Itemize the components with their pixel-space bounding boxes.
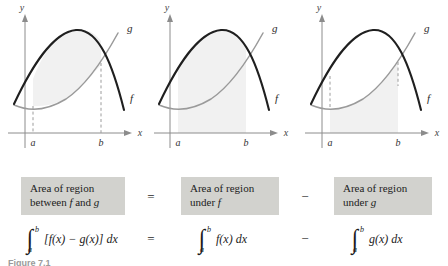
lower-bound-label-a: a <box>31 137 36 148</box>
upper-bound-label-b: b <box>99 137 104 148</box>
caption-area-between-f-and-g: Area of region between f and g <box>21 177 125 215</box>
curve-f-label: f <box>275 92 280 104</box>
curve-g-label: g <box>127 22 133 34</box>
x-axis-label: x <box>137 127 143 138</box>
y-axis-label: y <box>316 2 322 13</box>
integrand: g(x) <box>369 232 388 247</box>
integral-upper-limit: b <box>207 225 211 234</box>
panel-3-plot: y x a b g f <box>299 0 448 172</box>
caption-text-and: and <box>72 196 93 208</box>
differential: dx <box>106 232 117 247</box>
curve-f-label: f <box>427 92 432 104</box>
caption-line-2: under f <box>190 196 270 210</box>
integral-sign-group: ∫ b a <box>196 224 215 254</box>
caption-symbol-g: g <box>371 196 377 208</box>
x-axis-arrow <box>270 130 278 136</box>
integral-sign-group: ∫ b a <box>349 224 368 254</box>
caption-text-under: under <box>190 196 218 208</box>
caption-line-1: Area of region <box>190 182 270 196</box>
formula-row: ∫ b a [f(x) − g(x)] dx = ∫ b a f(x) dx −… <box>0 222 448 262</box>
y-axis-label: y <box>164 2 170 13</box>
caption-row: Area of region between f and g = Area of… <box>0 177 448 217</box>
shaded-region-under-f <box>159 30 269 133</box>
lower-bound-label-a: a <box>176 137 181 148</box>
y-axis-arrow <box>22 14 28 22</box>
panel-area-under-g: y x a b g f <box>299 0 448 172</box>
integrand: f(x) <box>216 232 233 247</box>
differential: dx <box>391 232 402 247</box>
figure-caption: Figure 7.1 <box>8 258 51 266</box>
y-axis-arrow <box>319 14 325 22</box>
caption-line-1: Area of region <box>30 182 116 196</box>
caption-line-2: between f and g <box>30 196 116 210</box>
integral-sign-group: ∫ b a <box>24 224 43 254</box>
caption-line-1: Area of region <box>343 182 423 196</box>
caption-symbol-g: g <box>94 196 100 208</box>
panel-1-plot: y x a b g f <box>0 0 150 172</box>
formula-integral-g: ∫ b a g(x) dx <box>349 222 403 256</box>
upper-bound-label-b: b <box>244 137 249 148</box>
curve-g <box>311 33 415 109</box>
differential: dx <box>236 232 247 247</box>
curve-f-label: f <box>130 92 135 104</box>
integral-lower-limit: a <box>353 245 357 254</box>
y-axis-arrow <box>167 14 173 22</box>
x-axis-arrow <box>421 130 429 136</box>
formula-integral-f: ∫ b a f(x) dx <box>196 222 247 256</box>
operator-minus-caption: − <box>295 189 315 205</box>
caption-symbol-f: f <box>218 196 221 208</box>
operator-equals-caption: = <box>141 189 161 205</box>
figure-area-between-curves: y x a b g f <box>0 0 448 266</box>
integral-lower-limit: a <box>200 245 204 254</box>
caption-text-between: between <box>30 196 69 208</box>
integral-upper-limit: b <box>35 225 39 234</box>
curve-g-label: g <box>272 22 278 34</box>
lower-bound-label-a: a <box>328 137 333 148</box>
curve-g-label: g <box>424 22 430 34</box>
caption-text-under: under <box>343 196 371 208</box>
panel-2-plot: y x a b g f <box>150 0 300 172</box>
integral-lower-limit: a <box>28 245 32 254</box>
operator-minus-formula: − <box>295 231 315 247</box>
x-axis-label: x <box>283 127 289 138</box>
integral-upper-limit: b <box>360 225 364 234</box>
panels-row: y x a b g f <box>0 0 448 172</box>
y-axis-label: y <box>19 2 25 13</box>
caption-area-under-g: Area of region under g <box>334 177 432 215</box>
caption-line-2: under g <box>343 196 423 210</box>
x-axis-label: x <box>434 127 440 138</box>
upper-bound-label-b: b <box>396 137 401 148</box>
caption-area-under-f: Area of region under f <box>181 177 279 215</box>
integrand: [f(x) − g(x)] <box>44 232 103 247</box>
panel-area-under-f: y x a b g f <box>150 0 300 172</box>
panel-area-between-f-and-g: y x a b g f <box>0 0 150 172</box>
formula-integral-difference: ∫ b a [f(x) − g(x)] dx <box>24 222 118 256</box>
operator-equals-formula: = <box>141 231 161 247</box>
x-axis-arrow <box>124 130 132 136</box>
